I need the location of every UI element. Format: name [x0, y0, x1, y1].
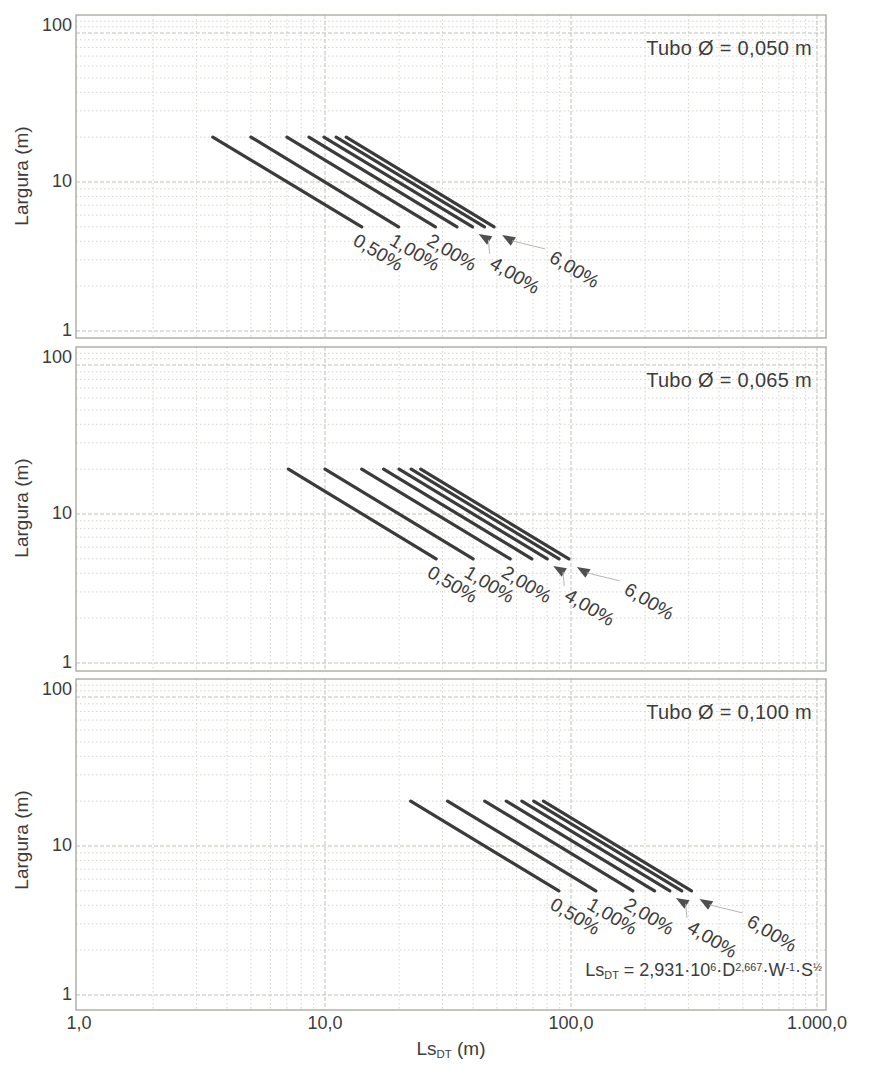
grid — [587, 573, 620, 581]
series-label: 6,00% — [546, 246, 603, 292]
y-tick-label: 100 — [12, 347, 72, 368]
arrow-marker — [479, 234, 493, 245]
y-tick-label: 1 — [12, 652, 72, 673]
x-axis-title-unit: (m) — [452, 1038, 486, 1059]
series-label: 4,00% — [561, 584, 618, 630]
grid — [686, 904, 687, 918]
y-tick-label: 10 — [12, 835, 72, 856]
y-tick-label: 10 — [12, 171, 72, 192]
series-label: 4,00% — [487, 252, 544, 298]
x-tick-label: 1,0 — [29, 1013, 129, 1034]
arrow-marker — [502, 235, 516, 246]
chart-canvas: 0,50%1,00%2,00%4,00%6,00%0,50%1,00%2,00%… — [0, 0, 870, 1068]
grid — [563, 572, 564, 586]
x-axis-title-sub: DT — [437, 1048, 452, 1060]
plot-frame — [76, 15, 826, 338]
arrow-marker — [700, 899, 714, 910]
x-tick-label: 1.000,0 — [767, 1013, 867, 1034]
x-tick-label: 10,0 — [275, 1013, 375, 1034]
grid — [488, 240, 489, 254]
x-tick-label: 100,0 — [521, 1013, 621, 1034]
arrow-marker — [577, 567, 591, 578]
grid — [709, 905, 742, 913]
series-label: 6,00% — [743, 910, 800, 956]
formula-term-d: ·D — [716, 960, 735, 980]
y-tick-label: 100 — [12, 15, 72, 36]
series-line — [346, 137, 494, 227]
formula-exp-w: -1 — [785, 961, 795, 973]
grid — [512, 241, 545, 249]
y-tick-label: 1 — [12, 320, 72, 341]
formula-eq: = 2,931·10 — [619, 960, 711, 980]
formula-annotation: LsDT = 2,931·106·D2,667·W-1·S½ — [585, 960, 822, 981]
chart-figure: 0,50%1,00%2,00%4,00%6,00%0,50%1,00%2,00%… — [0, 0, 870, 1068]
formula-term-s: ·S — [795, 960, 813, 980]
formula-lhs: Ls — [585, 960, 604, 980]
formula-exp-s: ½ — [813, 961, 822, 973]
series-label: 6,00% — [621, 578, 678, 624]
series-label: 4,00% — [684, 916, 741, 962]
x-axis-title: LsDT (m) — [371, 1038, 531, 1060]
y-tick-label: 10 — [12, 503, 72, 524]
x-axis-title-base: Ls — [416, 1038, 436, 1059]
chart-title-tubo-0065: Tubo Ø = 0,065 m — [646, 369, 812, 392]
formula-exp-d: 2,667 — [735, 961, 762, 973]
formula-term-w: ·W — [762, 960, 785, 980]
chart-title-tubo-0050: Tubo Ø = 0,050 m — [646, 37, 812, 60]
chart-title-tubo-0100: Tubo Ø = 0,100 m — [646, 701, 812, 724]
arrow-marker — [676, 898, 690, 909]
formula-lhs-sub: DT — [604, 969, 618, 981]
y-tick-label: 100 — [12, 679, 72, 700]
y-tick-label: 1 — [12, 984, 72, 1005]
